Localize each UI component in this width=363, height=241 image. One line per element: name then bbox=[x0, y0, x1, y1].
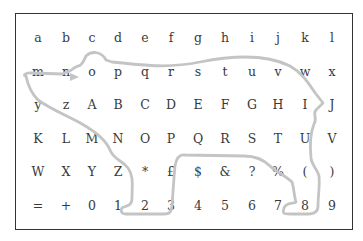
char-cell[interactable]: M bbox=[79, 129, 105, 149]
char-cell[interactable]: n bbox=[53, 62, 79, 82]
char-cell[interactable]: t bbox=[212, 62, 238, 82]
char-cell[interactable]: G bbox=[239, 95, 265, 115]
char-cell[interactable]: k bbox=[292, 28, 318, 48]
char-cell[interactable]: I bbox=[292, 95, 318, 115]
char-cell[interactable]: b bbox=[53, 28, 79, 48]
char-cell[interactable]: E bbox=[185, 95, 211, 115]
char-cell[interactable]: 9 bbox=[319, 196, 345, 216]
char-cell[interactable]: C bbox=[132, 95, 158, 115]
char-cell[interactable]: c bbox=[79, 28, 105, 48]
char-cell[interactable]: A bbox=[79, 95, 105, 115]
char-cell[interactable]: F bbox=[212, 95, 238, 115]
char-cell[interactable]: Y bbox=[79, 162, 105, 182]
character-grid: a b c d e f g h i j k l m n o p q r s t … bbox=[0, 0, 363, 241]
char-cell[interactable]: z bbox=[53, 95, 79, 115]
char-cell[interactable]: u bbox=[239, 62, 265, 82]
char-cell[interactable]: p bbox=[105, 62, 131, 82]
char-cell[interactable]: l bbox=[319, 28, 345, 48]
char-cell[interactable]: y bbox=[25, 95, 51, 115]
char-cell[interactable]: g bbox=[185, 28, 211, 48]
char-cell[interactable]: ) bbox=[319, 162, 345, 182]
char-cell[interactable]: ? bbox=[239, 162, 265, 182]
char-cell[interactable]: 8 bbox=[292, 196, 318, 216]
char-cell[interactable]: Z bbox=[105, 162, 131, 182]
char-cell[interactable]: h bbox=[212, 28, 238, 48]
char-cell[interactable]: 0 bbox=[79, 196, 105, 216]
char-cell[interactable]: D bbox=[158, 95, 184, 115]
char-cell[interactable]: S bbox=[239, 129, 265, 149]
char-cell[interactable]: £ bbox=[158, 162, 184, 182]
char-cell[interactable]: U bbox=[292, 129, 318, 149]
char-cell[interactable]: e bbox=[132, 28, 158, 48]
char-cell[interactable]: o bbox=[79, 62, 105, 82]
char-cell[interactable]: O bbox=[132, 129, 158, 149]
char-cell[interactable]: m bbox=[25, 62, 51, 82]
char-cell[interactable]: B bbox=[105, 95, 131, 115]
char-cell[interactable]: R bbox=[212, 129, 238, 149]
char-cell[interactable]: f bbox=[158, 28, 184, 48]
char-cell[interactable]: $ bbox=[185, 162, 211, 182]
char-cell[interactable]: J bbox=[319, 95, 345, 115]
char-cell[interactable]: W bbox=[25, 162, 51, 182]
char-cell[interactable]: 7 bbox=[265, 196, 291, 216]
char-cell[interactable]: s bbox=[185, 62, 211, 82]
char-cell[interactable]: & bbox=[212, 162, 238, 182]
char-cell[interactable]: = bbox=[25, 196, 51, 216]
char-cell[interactable]: 3 bbox=[158, 196, 184, 216]
char-cell[interactable]: 6 bbox=[239, 196, 265, 216]
char-cell[interactable]: i bbox=[239, 28, 265, 48]
char-cell[interactable]: v bbox=[265, 62, 291, 82]
char-cell[interactable]: + bbox=[53, 196, 79, 216]
char-cell[interactable]: a bbox=[25, 28, 51, 48]
char-cell[interactable]: V bbox=[319, 129, 345, 149]
char-cell[interactable]: 1 bbox=[105, 196, 131, 216]
char-cell[interactable]: 2 bbox=[132, 196, 158, 216]
char-cell[interactable]: H bbox=[265, 95, 291, 115]
char-cell[interactable]: T bbox=[265, 129, 291, 149]
char-cell[interactable]: L bbox=[53, 129, 79, 149]
char-cell[interactable]: N bbox=[105, 129, 131, 149]
char-cell[interactable]: % bbox=[265, 162, 291, 182]
char-cell[interactable]: j bbox=[265, 28, 291, 48]
char-cell[interactable]: P bbox=[158, 129, 184, 149]
char-cell[interactable]: Q bbox=[185, 129, 211, 149]
char-cell[interactable]: q bbox=[132, 62, 158, 82]
char-cell[interactable]: w bbox=[292, 62, 318, 82]
char-cell[interactable]: K bbox=[25, 129, 51, 149]
char-cell[interactable]: x bbox=[319, 62, 345, 82]
char-cell[interactable]: 4 bbox=[185, 196, 211, 216]
char-cell[interactable]: X bbox=[53, 162, 79, 182]
char-cell[interactable]: ( bbox=[292, 162, 318, 182]
char-cell[interactable]: * bbox=[132, 162, 158, 182]
char-cell[interactable]: d bbox=[105, 28, 131, 48]
char-cell[interactable]: 5 bbox=[212, 196, 238, 216]
char-cell[interactable]: r bbox=[158, 62, 184, 82]
